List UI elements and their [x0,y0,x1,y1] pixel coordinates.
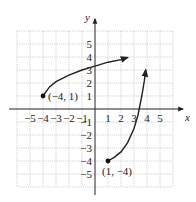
point-label: (−4, 1) [48,90,78,103]
y-tick-label: −5 [80,168,92,180]
start-point-marker [41,94,46,99]
x-tick-label: 2 [118,112,124,124]
x-tick-label: −2 [63,112,75,124]
x-tick-label: 5 [157,112,163,124]
y-tick-label: −3 [80,142,92,154]
function-graph: −5−4−3−2−11234554321−1−2−3−4−5 (−4, 1)(1… [0,0,196,202]
x-axis-label: x [184,111,190,123]
y-tick-label: −1 [80,116,92,128]
y-tick-label: 5 [87,38,93,50]
y-tick-label: −4 [80,155,92,167]
y-tick-label: 1 [87,90,93,102]
x-tick-label: 4 [144,112,150,124]
x-tick-label: −3 [50,112,62,124]
start-point-marker [106,159,111,164]
y-tick-label: 2 [87,77,93,89]
y-tick-label: 3 [87,64,93,76]
x-tick-label: 1 [105,112,111,124]
y-tick-label: −2 [80,129,92,141]
y-axis-label: y [84,11,90,23]
y-tick-label: 4 [87,51,93,63]
axes [9,19,183,195]
x-tick-label: −5 [24,112,36,124]
point-label: (1, −4) [102,165,132,178]
x-tick-label: −4 [37,112,49,124]
lower-curve [108,70,146,161]
